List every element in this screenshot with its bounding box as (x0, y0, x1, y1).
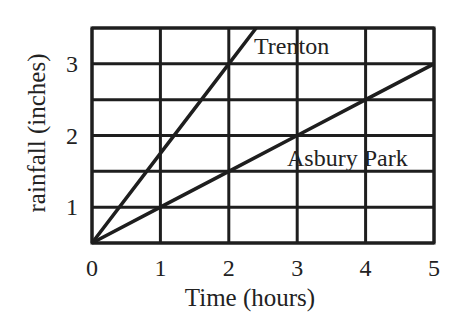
grid-lines (92, 28, 434, 243)
x-tick-label: 0 (86, 255, 98, 281)
x-axis-ticks: 012345 (86, 255, 440, 281)
x-tick-label: 1 (154, 255, 166, 281)
y-tick-label: 3 (66, 51, 78, 77)
rainfall-line-chart: 012345 123 Trenton Asbury Park Time (hou… (0, 0, 467, 333)
y-axis-label: rainfall (inches) (23, 54, 51, 213)
x-tick-label: 2 (223, 255, 235, 281)
series-label-trenton: Trenton (254, 33, 329, 59)
y-tick-label: 2 (66, 123, 78, 149)
series-label-asbury-park: Asbury Park (287, 145, 408, 171)
y-tick-label: 1 (66, 194, 78, 220)
x-tick-label: 3 (291, 255, 303, 281)
x-axis-label: Time (hours) (185, 284, 315, 312)
x-tick-label: 5 (428, 255, 440, 281)
x-tick-label: 4 (360, 255, 372, 281)
y-axis-ticks: 123 (66, 51, 78, 220)
